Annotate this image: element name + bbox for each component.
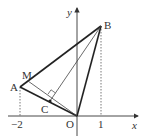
y-axis-label: y [66, 6, 72, 18]
segment-bc [50, 26, 101, 101]
tick-1: 1 [98, 118, 104, 130]
right-angle-mark [48, 90, 56, 94]
point-c-dot [48, 99, 51, 102]
x-axis-label: x [131, 119, 137, 131]
segment-ab [20, 26, 101, 87]
label-c: C [41, 103, 48, 115]
geometry-figure: y x B M A C O −2 1 [0, 0, 148, 139]
tick-neg2: −2 [11, 118, 23, 130]
label-b: B [104, 19, 111, 31]
segment-bo [77, 26, 101, 116]
label-a: A [10, 81, 18, 93]
segment-om [28, 81, 77, 116]
label-m: M [22, 69, 32, 81]
label-o: O [66, 118, 74, 130]
